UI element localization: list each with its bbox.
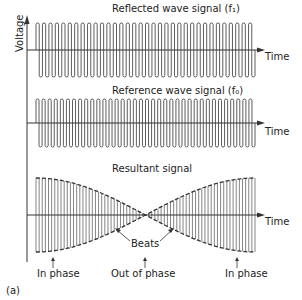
- time-label-middle: Time: [265, 127, 289, 137]
- up-arrow-icon: [51, 257, 55, 261]
- y-axis-arrow-icon: [25, 15, 30, 24]
- time-label-bottom: Time: [265, 217, 289, 227]
- time-label-top: Time: [265, 52, 289, 62]
- beats-diagram: [0, 0, 302, 300]
- upper-envelope: [36, 178, 255, 215]
- panel-label: (a): [6, 286, 20, 296]
- time-axis-arrow-icon: [257, 48, 265, 53]
- time-axis-arrow-icon: [257, 213, 265, 218]
- time-axis-arrow-icon: [257, 121, 265, 126]
- resultant-signal-title: Resultant signal: [112, 164, 192, 174]
- reflected-wave-title: Reflected wave signal (f₁): [112, 4, 240, 14]
- up-arrow-icon: [235, 257, 239, 261]
- reference-wave-title: Reference wave signal (f₀): [112, 86, 243, 96]
- out-of-phase-label: Out of phase: [111, 269, 175, 279]
- in-phase-label-left: In phase: [37, 269, 80, 279]
- y-axis-label: Voltage: [15, 14, 25, 52]
- beats-label: Beats: [131, 239, 159, 249]
- up-arrow-icon: [143, 257, 147, 261]
- in-phase-label-right: In phase: [225, 269, 268, 279]
